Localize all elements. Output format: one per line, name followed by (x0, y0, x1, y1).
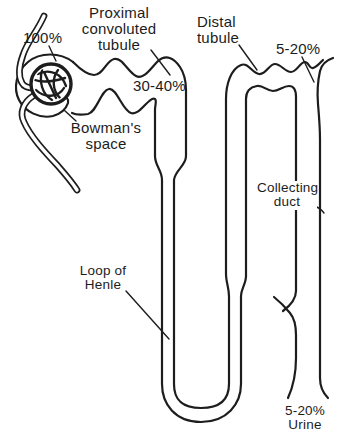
label-bowmans-space: Bowman's space (66, 120, 146, 152)
label-distal-tubule: Distal tubule (197, 14, 239, 46)
label-filtrate-pct: 100% (23, 30, 62, 46)
label-collecting-duct: Collecting duct (257, 181, 317, 210)
label-urine-pct: 5-20% Urine (283, 404, 327, 433)
proximal-tubule-upper-wall (73, 57, 323, 408)
nephron-diagram: 100% Proximal convoluted tubule Bowman's… (0, 0, 341, 445)
diagram-canvas (0, 0, 341, 445)
collecting-duct-left-wall (274, 297, 296, 398)
glomerulus (31, 64, 71, 104)
label-loop-of-henle: Loop of Henle (77, 264, 129, 293)
label-proximal-tubule: Proximal convoluted tubule (69, 5, 169, 53)
collecting-duct-right-wall (318, 58, 333, 398)
label-distal-reabsorption-pct: 5-20% (276, 41, 320, 57)
leader-distal-pct (302, 57, 314, 82)
leader-proximal-tubule (151, 50, 170, 75)
label-proximal-reabsorption-pct: 30-40% (133, 78, 186, 94)
